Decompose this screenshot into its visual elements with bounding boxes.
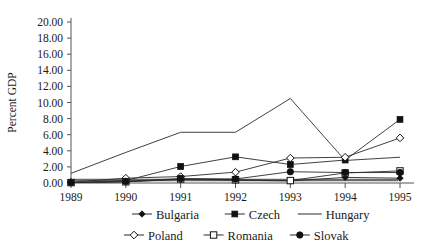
data-point-slovak-1989 [68, 179, 74, 185]
legend-marker-romania [210, 232, 216, 238]
y-axis: 0.002.004.006.008.0010.0012.0014.0016.00… [37, 16, 71, 189]
legend-item-hungary: Hungary [298, 208, 370, 222]
legend-label-slovak: Slovak [314, 229, 349, 243]
y-tick-label: 4.00 [43, 145, 63, 157]
x-tick-label: 1993 [279, 191, 302, 203]
data-point-slovak-1992 [232, 176, 238, 182]
data-point-slovak-1991 [177, 175, 183, 181]
y-tick-label: 2.00 [43, 161, 63, 173]
x-tick-label: 1991 [169, 191, 192, 203]
x-axis: 1989199019911992199319941995 [60, 183, 415, 203]
legend-item-czech: Czech [225, 208, 281, 222]
legend-item-poland: Poland [124, 229, 183, 243]
legend-label-poland: Poland [148, 229, 183, 243]
legend-marker-poland [130, 231, 138, 239]
y-tick-label: 10.00 [37, 97, 63, 109]
chart-figure: 0.002.004.006.008.0010.0012.0014.0016.00… [0, 0, 436, 250]
y-axis-title: Percent GDP [6, 72, 18, 132]
data-point-slovak-1993 [287, 169, 293, 175]
series-line-hungary [71, 98, 400, 173]
legend-label-romania: Romania [228, 229, 274, 243]
data-point-czech-1995 [397, 117, 403, 123]
legend-item-bulgaria: Bulgaria [132, 208, 199, 222]
data-point-poland-1993 [287, 154, 295, 162]
line-chart: 0.002.004.006.008.0010.0012.0014.0016.00… [0, 0, 436, 250]
y-tick-label: 16.00 [37, 48, 63, 60]
data-point-czech-1991 [178, 164, 184, 170]
x-tick-label: 1992 [224, 191, 247, 203]
chart-legend: BulgariaCzechHungaryPolandRomaniaSlovak [124, 208, 370, 243]
y-tick-label: 20.00 [37, 16, 63, 28]
data-point-poland-1995 [396, 134, 404, 142]
legend-marker-slovak [297, 232, 303, 238]
x-tick-label: 1994 [334, 191, 357, 203]
legend-marker-czech [232, 211, 238, 217]
y-tick-label: 18.00 [37, 32, 63, 44]
x-tick-label: 1990 [114, 191, 137, 203]
plot-markers-group [67, 117, 404, 186]
data-point-poland-1992 [232, 168, 240, 176]
x-tick-label: 1989 [60, 191, 83, 203]
data-point-czech-1992 [233, 154, 239, 160]
data-point-romania-1993 [287, 177, 293, 183]
data-point-slovak-1995 [397, 169, 403, 175]
legend-label-czech: Czech [249, 208, 281, 222]
y-tick-label: 8.00 [43, 113, 63, 125]
y-tick-label: 12.00 [37, 80, 63, 92]
legend-item-romania: Romania [204, 229, 274, 243]
legend-marker-bulgaria [139, 211, 145, 217]
legend-label-hungary: Hungary [326, 208, 370, 222]
y-tick-label: 6.00 [43, 129, 63, 141]
y-tick-label: 14.00 [37, 64, 63, 76]
legend-item-slovak: Slovak [290, 229, 349, 243]
y-tick-label: 0.00 [43, 177, 63, 189]
x-tick-label: 1995 [389, 191, 412, 203]
data-point-slovak-1994 [342, 169, 348, 175]
data-point-slovak-1990 [123, 178, 129, 184]
legend-label-bulgaria: Bulgaria [156, 208, 199, 222]
